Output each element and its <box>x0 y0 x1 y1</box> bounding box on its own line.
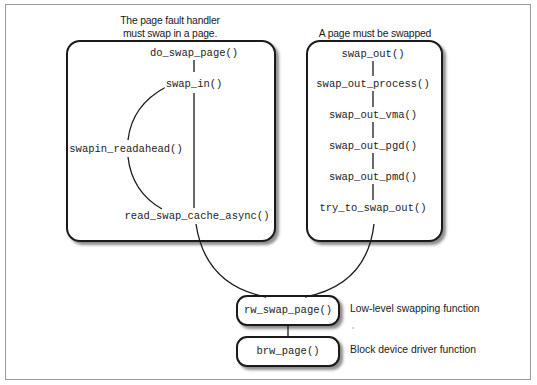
left-caption-line1: The page fault handler <box>116 14 224 27</box>
fn-swap-in: swap_in() <box>165 78 224 90</box>
fn-try-to-swap-out: try_to_swap_out() <box>318 202 427 214</box>
fn-swap-out-pgd: swap_out_pgd() <box>328 140 418 152</box>
note-block-device-driver: Block device driver function <box>350 343 476 355</box>
note-low-level-swapping: Low-level swapping function <box>350 302 479 314</box>
left-caption-line2: must swap in a page. <box>116 27 224 40</box>
fn-swap-out-vma: swap_out_vma() <box>328 109 418 121</box>
left-panel-caption: The page fault handler must swap in a pa… <box>116 14 224 40</box>
fn-do-swap-page: do_swap_page() <box>149 47 239 59</box>
fn-swap-out-process: swap_out_process() <box>315 78 430 90</box>
fn-swapin-readahead: swapin_readahead() <box>68 143 183 155</box>
fn-rw-swap-page: rw_swap_page() <box>243 304 333 316</box>
fn-swap-out: swap_out() <box>340 48 405 60</box>
fn-swap-out-pmd: swap_out_pmd() <box>328 171 418 183</box>
fn-read-swap-cache-async: read_swap_cache_async() <box>124 210 271 222</box>
fn-brw-page: brw_page() <box>255 345 320 357</box>
